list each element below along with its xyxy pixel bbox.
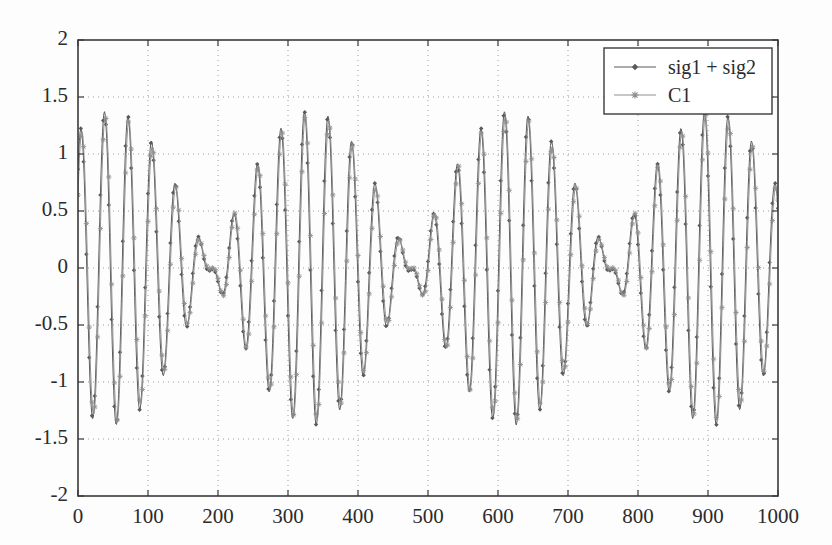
data-point-marker	[98, 193, 102, 197]
data-point-marker	[182, 301, 187, 306]
data-point-marker	[448, 287, 452, 291]
data-point-marker	[145, 219, 150, 224]
data-point-marker	[414, 271, 419, 276]
data-point-marker	[773, 181, 777, 185]
data-point-marker	[247, 320, 251, 324]
data-point-marker	[641, 323, 646, 328]
data-point-marker	[137, 408, 141, 412]
data-point-marker	[333, 296, 338, 301]
data-point-marker	[165, 328, 170, 333]
data-point-marker	[661, 268, 665, 272]
data-point-marker	[101, 137, 106, 142]
data-point-marker	[708, 249, 713, 254]
data-point-marker	[705, 151, 710, 156]
data-point-marker	[425, 268, 430, 273]
data-point-marker	[686, 328, 690, 332]
data-point-marker	[448, 305, 453, 310]
data-point-marker	[440, 312, 444, 316]
data-point-marker	[717, 394, 722, 399]
data-point-marker	[677, 144, 682, 149]
data-point-marker	[554, 217, 559, 222]
data-point-marker	[767, 260, 771, 264]
data-point-marker	[162, 367, 167, 372]
data-point-marker	[269, 382, 274, 387]
data-point-marker	[470, 356, 475, 361]
data-point-marker	[552, 166, 556, 170]
xtick-label: 700	[528, 504, 608, 529]
data-point-marker	[373, 181, 377, 185]
data-point-marker	[756, 265, 761, 270]
data-point-marker	[686, 295, 691, 300]
data-point-marker	[224, 282, 229, 287]
data-point-marker	[700, 157, 705, 162]
data-point-marker	[367, 291, 372, 296]
data-point-marker	[675, 190, 679, 194]
data-point-marker	[593, 249, 598, 254]
data-point-marker	[714, 423, 718, 427]
data-point-marker	[728, 144, 732, 148]
data-point-marker	[134, 337, 139, 342]
data-point-marker	[621, 293, 626, 298]
data-point-marker	[87, 325, 92, 330]
data-point-marker	[532, 250, 537, 255]
data-point-marker	[535, 349, 540, 354]
data-point-marker	[745, 216, 749, 220]
data-point-marker	[764, 343, 769, 348]
data-point-marker	[437, 262, 441, 266]
data-point-marker	[566, 301, 570, 305]
xtick-label: 900	[668, 504, 748, 529]
data-point-marker	[694, 361, 699, 366]
data-point-marker	[378, 249, 382, 253]
data-point-marker	[484, 235, 489, 240]
data-point-marker	[129, 147, 134, 152]
data-point-marker	[633, 211, 638, 216]
data-point-marker	[339, 401, 344, 406]
data-point-marker	[549, 139, 553, 143]
data-point-marker	[193, 252, 198, 257]
data-point-marker	[473, 243, 477, 247]
data-point-marker	[627, 250, 632, 255]
data-point-marker	[731, 206, 736, 211]
data-point-marker	[742, 314, 746, 318]
data-point-marker	[221, 293, 226, 298]
data-point-marker	[355, 253, 360, 258]
data-point-marker	[106, 174, 111, 179]
data-point-marker	[728, 131, 733, 136]
data-point-marker	[481, 152, 486, 157]
data-point-marker	[747, 167, 752, 172]
data-point-marker	[317, 387, 321, 391]
data-point-marker	[588, 300, 592, 304]
data-point-marker	[669, 377, 674, 382]
data-point-marker	[487, 368, 491, 372]
data-point-marker	[647, 326, 652, 331]
data-point-marker	[540, 379, 545, 384]
data-point-marker	[305, 141, 310, 146]
data-point-marker	[353, 176, 358, 181]
data-point-marker	[445, 343, 450, 348]
data-point-marker	[487, 338, 492, 343]
data-point-marker	[92, 404, 97, 409]
data-point-marker	[241, 317, 246, 322]
data-point-marker	[442, 337, 447, 342]
data-series-group	[75, 110, 780, 427]
data-point-marker	[691, 411, 696, 416]
legend[interactable]: sig1 + sig2C1	[604, 48, 772, 114]
data-point-marker	[563, 364, 568, 369]
data-point-marker	[168, 241, 172, 245]
data-point-marker	[453, 181, 458, 186]
data-point-marker	[364, 350, 369, 355]
data-point-marker	[285, 280, 290, 285]
data-point-marker	[574, 186, 579, 191]
data-point-marker	[745, 245, 750, 250]
xtick-label: 0	[38, 504, 118, 529]
data-point-marker	[473, 272, 478, 277]
data-point-marker	[490, 405, 495, 410]
legend-label: C1	[668, 84, 691, 106]
data-point-marker	[314, 422, 318, 426]
data-point-marker	[499, 179, 503, 183]
data-point-marker	[126, 115, 130, 119]
data-point-marker	[322, 211, 327, 216]
data-point-marker	[98, 226, 103, 231]
data-point-marker	[361, 373, 365, 377]
data-point-marker	[137, 398, 142, 403]
